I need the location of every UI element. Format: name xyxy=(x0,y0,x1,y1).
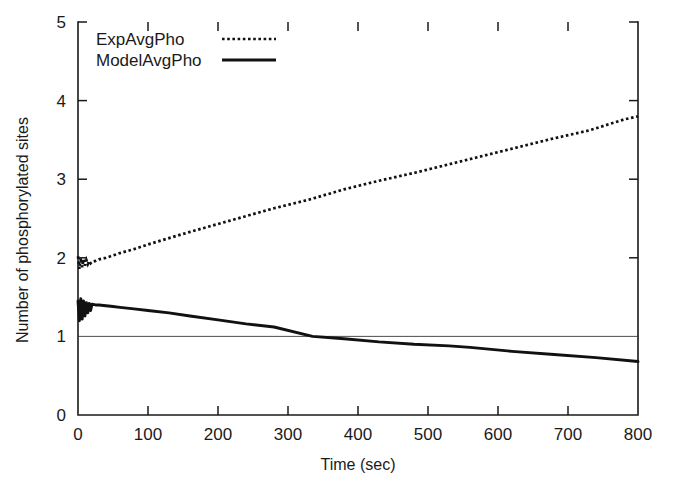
y-tick-label-3: 3 xyxy=(57,170,66,189)
y-tick-label-4: 4 xyxy=(57,92,66,111)
plot-frame xyxy=(78,22,638,415)
x-tick-label-200: 200 xyxy=(204,425,232,444)
y-tick-label-0: 0 xyxy=(57,406,66,425)
legend-label-expavgpho: ExpAvgPho xyxy=(96,30,185,49)
y-tick-label-2: 2 xyxy=(57,249,66,268)
y-tick-label-1: 1 xyxy=(57,327,66,346)
legend-label-modelavgpho: ModelAvgPho xyxy=(96,51,202,70)
x-axis-ticks xyxy=(148,22,568,415)
x-tick-label-300: 300 xyxy=(274,425,302,444)
y-axis-title: Number of phosphorylated sites xyxy=(14,117,31,343)
series-layer xyxy=(78,116,638,361)
x-tick-label-400: 400 xyxy=(344,425,372,444)
chart-container: 012345 0100200300400500600700800 Time (s… xyxy=(0,0,683,489)
x-axis-title: Time (sec) xyxy=(321,456,396,473)
y-tick-label-5: 5 xyxy=(57,13,66,32)
x-tick-label-500: 500 xyxy=(414,425,442,444)
x-tick-label-600: 600 xyxy=(484,425,512,444)
series-modelavgpho xyxy=(78,299,638,362)
x-tick-label-800: 800 xyxy=(624,425,652,444)
legend: ExpAvgPho ModelAvgPho xyxy=(88,26,284,72)
x-axis-tick-labels: 0100200300400500600700800 xyxy=(73,425,652,444)
x-tick-label-100: 100 xyxy=(134,425,162,444)
series-expavgpho xyxy=(78,116,638,268)
x-tick-label-700: 700 xyxy=(554,425,582,444)
y-axis-tick-labels: 012345 xyxy=(57,13,66,425)
x-tick-label-0: 0 xyxy=(73,425,82,444)
line-chart: 012345 0100200300400500600700800 Time (s… xyxy=(0,0,683,489)
axis-frame xyxy=(78,22,638,415)
